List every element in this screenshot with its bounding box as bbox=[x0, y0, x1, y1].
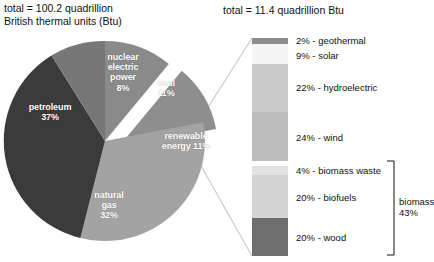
bar-label-biofuels: 20% - biofuels bbox=[296, 192, 356, 203]
biomass-group-bracket bbox=[386, 160, 398, 260]
bar-label-hydroelectric: 22% - hydroelectric bbox=[296, 82, 377, 93]
energy-sources-figure: total = 100.2 quadrillion British therma… bbox=[0, 0, 434, 262]
bar-segment-biofuels bbox=[252, 175, 288, 218]
bar-segment-solar bbox=[252, 44, 288, 64]
bar-label-geothermal: 2% - geothermal bbox=[296, 35, 366, 46]
bar-label-wood: 20% - wood bbox=[296, 232, 346, 243]
pie-label-coal: coal 11% bbox=[146, 78, 186, 98]
renewable-breakdown-stacked-bar bbox=[252, 38, 288, 256]
pie-label-nuclear-electric-power: nuclear electric power 8% bbox=[96, 52, 150, 93]
bar-label-solar: 9% - solar bbox=[296, 50, 339, 61]
energy-sources-pie-chart: petroleum 37% nuclear electric power 8% … bbox=[0, 30, 225, 262]
bar-segment-biomass-waste bbox=[252, 166, 288, 175]
pie-label-natural-gas: natural gas 32% bbox=[78, 190, 140, 221]
bar-label-biomass-waste: 4% - biomass waste bbox=[296, 165, 381, 176]
pie-label-renewable-energy: renewable energy 11% bbox=[148, 131, 224, 151]
pie-label-petroleum: petroleum 37% bbox=[10, 102, 90, 122]
bar-segment-hydroelectric bbox=[252, 64, 288, 112]
biomass-group-label: biomass 43% bbox=[399, 196, 434, 218]
bar-label-wind: 24% - wind bbox=[296, 132, 343, 143]
bar-segment-wood bbox=[252, 218, 288, 256]
bar-segment-wind bbox=[252, 112, 288, 161]
